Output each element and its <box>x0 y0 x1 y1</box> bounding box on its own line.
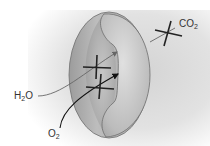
red-blood-cell <box>69 12 150 138</box>
red-blood-cell-diagram: CO2 H2O O2 <box>0 0 210 146</box>
label-h2o: H2O <box>14 90 33 102</box>
